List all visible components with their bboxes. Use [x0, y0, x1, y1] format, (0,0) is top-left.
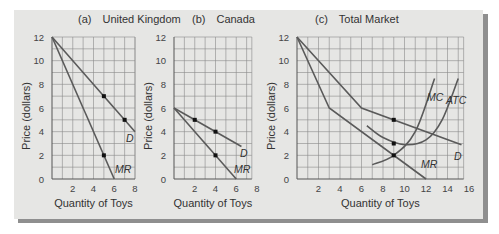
y-tick-label: 10: [278, 55, 289, 66]
x-tick-label: 2: [192, 183, 197, 194]
y-tick-label: 6: [284, 103, 289, 114]
x-tick-label: 8: [380, 183, 385, 194]
y-tick-label: 0: [284, 174, 289, 185]
y-tick-label: 8: [39, 79, 44, 90]
y-axis-label: Price (dollars): [265, 82, 277, 150]
d-label: D: [454, 150, 462, 162]
y-tick-label: 10: [155, 55, 166, 66]
y-tick-label: 8: [161, 79, 166, 90]
d-label: D: [240, 147, 248, 159]
x-tick-label: 6: [234, 183, 239, 194]
x-tick-label: 4: [213, 183, 218, 194]
x-tick-label: 2: [316, 183, 321, 194]
data-point: [102, 153, 106, 157]
x-tick-label: 14: [442, 183, 453, 194]
atc-label: ATC: [445, 94, 467, 106]
mr-label: MR: [234, 163, 251, 175]
y-tick-label: 2: [284, 150, 289, 161]
x-tick-label: 4: [337, 183, 342, 194]
y-axis-label: Price (dollars): [142, 82, 154, 150]
data-point: [123, 118, 127, 122]
y-tick-label: 6: [161, 103, 166, 114]
data-point: [392, 142, 396, 146]
x-axis-label: Quantity of Toys: [54, 197, 133, 209]
y-tick-label: 12: [33, 32, 44, 43]
mc-label: MC: [427, 91, 444, 103]
y-tick-label: 4: [39, 126, 44, 137]
x-tick-label: 4: [91, 183, 96, 194]
data-point: [193, 118, 197, 122]
mc-curve: [372, 78, 434, 164]
x-tick-label: 12: [421, 183, 432, 194]
data-point: [214, 153, 218, 157]
y-tick-label: 2: [161, 150, 166, 161]
x-tick-label: 10: [399, 183, 410, 194]
y-axis-label: Price (dollars): [20, 82, 32, 150]
y-tick-label: 12: [155, 32, 166, 43]
mr-label: MR: [115, 163, 132, 175]
chart-canvas: 0246810122468(a) United KingdomQuantity …: [0, 0, 499, 234]
panel-title: (c) Total Market: [315, 13, 399, 25]
data-point: [102, 94, 106, 98]
y-tick-label: 10: [33, 55, 44, 66]
data-point: [392, 153, 396, 157]
panel-c: 024681012246810121416(c) Total MarketQua…: [265, 13, 474, 209]
panel-title: (a) United Kingdom: [78, 13, 181, 25]
x-axis-label: Quantity of Toys: [174, 197, 253, 209]
panel-title: (b) Canada: [192, 13, 256, 25]
x-axis-label: Quantity of Toys: [341, 197, 420, 209]
d-label: D: [126, 132, 134, 144]
x-tick-label: 8: [254, 183, 259, 194]
y-tick-label: 6: [39, 103, 44, 114]
grid: [297, 37, 464, 179]
data-point: [392, 118, 396, 122]
data-point: [214, 130, 218, 134]
x-tick-label: 2: [70, 183, 75, 194]
x-tick-label: 16: [464, 183, 475, 194]
x-tick-label: 6: [112, 183, 117, 194]
panel-b: 0246810122468(b) CanadaQuantity of ToysP…: [142, 13, 260, 209]
y-tick-label: 4: [284, 126, 289, 137]
y-tick-label: 0: [161, 174, 166, 185]
x-tick-label: 8: [132, 183, 137, 194]
x-tick-label: 6: [359, 183, 364, 194]
y-tick-label: 12: [278, 32, 289, 43]
y-tick-label: 8: [284, 79, 289, 90]
mr-label: MR: [421, 158, 438, 170]
y-tick-label: 4: [161, 126, 166, 137]
grid: [52, 37, 135, 179]
y-tick-label: 2: [39, 150, 44, 161]
y-tick-label: 0: [39, 174, 44, 185]
